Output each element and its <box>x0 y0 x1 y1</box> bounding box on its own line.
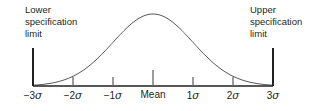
axis-tick-label: 1σ <box>173 89 213 101</box>
tick-value: −2 <box>64 90 75 101</box>
axis-tick-label: 3σ <box>253 89 293 101</box>
axis-tick-label: 2σ <box>213 89 253 101</box>
axis-tick-marks <box>73 70 233 86</box>
sigma-symbol: σ <box>35 89 42 101</box>
sigma-symbol: σ <box>192 89 199 101</box>
tick-value: −1 <box>104 90 115 101</box>
axis-tick-label: −2σ <box>53 89 93 101</box>
axis-tick-label: −1σ <box>93 89 133 101</box>
tick-value: −3 <box>24 90 35 101</box>
sigma-symbol: σ <box>232 89 239 101</box>
axis-tick-label: −3σ <box>13 89 53 101</box>
sigma-symbol: σ <box>115 89 122 101</box>
sigma-symbol: σ <box>75 89 82 101</box>
axis-tick-label: Mean <box>133 89 173 100</box>
process-capability-figure: Lower specification limit Upper specific… <box>0 0 329 111</box>
sigma-symbol: σ <box>272 89 279 101</box>
